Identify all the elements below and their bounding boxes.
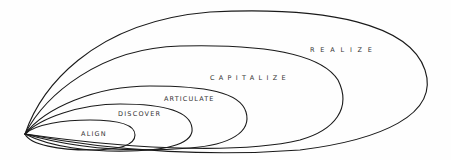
stage-label-realize: REALIZE	[310, 47, 378, 54]
stage-label-capitalize: CAPITALIZE	[210, 75, 290, 82]
stage-label-discover: DISCOVER	[118, 111, 161, 118]
diagram-canvas: ALIGN DISCOVER ARTICULATE CAPITALIZE REA…	[0, 0, 451, 160]
stage-label-align: ALIGN	[81, 131, 107, 138]
stage-label-articulate: ARTICULATE	[164, 96, 214, 103]
